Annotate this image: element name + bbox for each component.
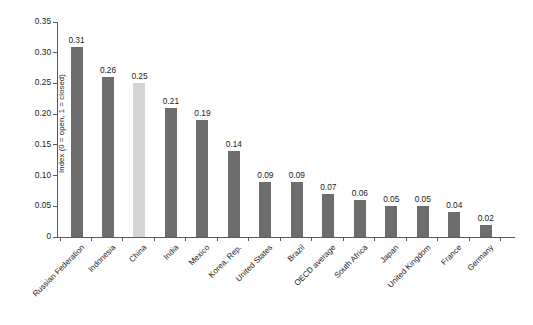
- bar-value-label: 0.06: [352, 188, 368, 198]
- bar: 0.07: [322, 194, 334, 237]
- y-axis-tick-mark: [53, 144, 57, 145]
- x-axis-tick-mark: [248, 237, 249, 241]
- x-axis-category-label-text: Germany: [465, 243, 495, 273]
- bar: 0.14: [228, 151, 240, 237]
- y-axis-tick-label: 0.05: [35, 200, 51, 210]
- y-axis-tick-label: 0.15: [35, 139, 51, 149]
- bar-value-label: 0.19: [194, 108, 210, 118]
- bar-value-label: 0.21: [163, 96, 179, 106]
- bar-value-label: 0.07: [320, 182, 336, 192]
- bar-value-label: 0.09: [257, 170, 273, 180]
- bar-chart: Index (0 = open, 1 = closed) 00.050.100.…: [0, 0, 533, 325]
- x-axis-category-label-text: Japan: [379, 243, 401, 265]
- plot-area: 00.050.100.150.200.250.300.350.310.260.2…: [57, 22, 515, 237]
- x-axis-category-label-text: France: [440, 243, 464, 267]
- bar-value-label: 0.09: [289, 170, 305, 180]
- x-axis-tick-mark: [91, 237, 92, 241]
- x-axis-tick-mark: [122, 237, 123, 241]
- x-axis-category-label-text: South Africa: [332, 243, 369, 280]
- x-axis-category-label-text: Brazil: [286, 243, 307, 264]
- bar: 0.05: [417, 206, 429, 237]
- bar-value-label: 0.14: [226, 139, 242, 149]
- bar-value-label: 0.31: [68, 35, 84, 45]
- bar-value-label: 0.02: [478, 213, 494, 223]
- y-axis-tick-mark: [53, 22, 57, 23]
- x-axis-tick-mark: [374, 237, 375, 241]
- x-axis-category-label: Brazil: [286, 243, 307, 264]
- y-axis-tick-label: 0.10: [35, 170, 51, 180]
- bar-value-label: 0.25: [131, 71, 147, 81]
- x-axis-category-label: Mexico: [188, 243, 212, 267]
- x-axis-category-label: Indonesia: [86, 243, 117, 274]
- x-axis-category-label: Japan: [379, 243, 401, 265]
- x-axis-tick-mark: [406, 237, 407, 241]
- y-axis-tick-mark: [53, 206, 57, 207]
- y-axis-tick-mark: [53, 237, 57, 238]
- x-axis-category-label: South Africa: [332, 243, 369, 280]
- bar: 0.06: [354, 200, 366, 237]
- bar-value-label: 0.05: [415, 194, 431, 204]
- y-axis-tick-label: 0.25: [35, 77, 51, 87]
- x-axis-category-label-text: Indonesia: [86, 243, 117, 274]
- x-axis-category-label: India: [162, 243, 181, 262]
- x-axis-tick-mark: [469, 237, 470, 241]
- bar-value-label: 0.04: [446, 200, 462, 210]
- bar: 0.09: [259, 182, 271, 237]
- bar: 0.02: [480, 225, 492, 237]
- y-axis-tick-mark: [53, 52, 57, 53]
- x-axis-category-label: Germany: [465, 243, 495, 273]
- y-axis-tick-mark: [53, 175, 57, 176]
- y-axis-tick-label: 0: [46, 231, 51, 241]
- y-axis-tick-label: 0.35: [35, 16, 51, 26]
- y-axis-tick-label: 0.30: [35, 47, 51, 57]
- x-axis-category-label: China: [128, 243, 149, 264]
- bar: 0.19: [196, 120, 208, 237]
- x-axis-tick-mark: [185, 237, 186, 241]
- bar-value-label: 0.05: [383, 194, 399, 204]
- x-axis-category-label-text: China: [128, 243, 149, 264]
- y-axis-tick-label: 0.20: [35, 108, 51, 118]
- bar: 0.21: [165, 108, 177, 237]
- bar: 0.09: [291, 182, 303, 237]
- x-axis-tick-mark: [500, 237, 501, 241]
- x-axis-tick-mark: [343, 237, 344, 241]
- x-axis-category-label-text: India: [162, 243, 181, 262]
- bar: 0.26: [102, 77, 114, 237]
- bar: 0.05: [385, 206, 397, 237]
- x-axis-category-label-text: Russian Federation: [30, 243, 85, 298]
- x-axis-category-label: France: [440, 243, 464, 267]
- bar: 0.25: [133, 83, 145, 237]
- bar-value-label: 0.26: [100, 65, 116, 75]
- bar: 0.31: [71, 47, 83, 237]
- x-axis-category-label-text: Mexico: [188, 243, 212, 267]
- x-axis-tick-mark: [437, 237, 438, 241]
- y-axis-tick-mark: [53, 83, 57, 84]
- x-axis-tick-mark: [280, 237, 281, 241]
- bar: 0.04: [448, 212, 460, 237]
- x-axis-category-label: Russian Federation: [30, 243, 85, 298]
- x-axis-tick-mark: [217, 237, 218, 241]
- x-axis-tick-mark: [311, 237, 312, 241]
- x-axis-tick-mark: [154, 237, 155, 241]
- y-axis-tick-mark: [53, 114, 57, 115]
- x-axis-tick-mark: [60, 237, 61, 241]
